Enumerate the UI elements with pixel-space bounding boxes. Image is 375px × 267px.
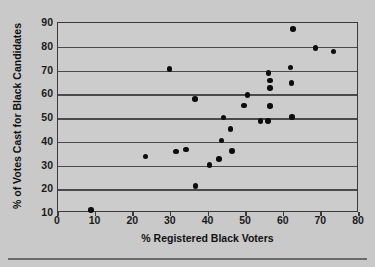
x-tick-label-30: 30 — [155, 215, 185, 226]
data-point — [216, 156, 222, 162]
y-axis-tick-labels: 102030405060708090 — [25, 0, 53, 267]
data-point — [265, 118, 271, 124]
data-point — [207, 162, 213, 168]
data-point — [289, 80, 295, 86]
data-point — [228, 126, 234, 132]
gridline-y-60 — [58, 94, 357, 96]
x-tick-label-70: 70 — [305, 215, 335, 226]
y-tick-label-70: 70 — [29, 65, 53, 76]
scatter-chart-figure: 102030405060708090 % of Votes Cast for B… — [0, 0, 375, 267]
data-point — [143, 154, 149, 160]
y-tick-label-20: 20 — [29, 183, 53, 194]
gridline-y-90 — [58, 23, 357, 25]
x-axis-title: % Registered Black Voters — [57, 232, 358, 244]
data-point — [219, 138, 225, 144]
gridline-y-70 — [58, 71, 357, 73]
y-tick-label-90: 90 — [29, 17, 53, 28]
data-point — [183, 147, 189, 153]
data-point — [241, 103, 247, 109]
data-point — [289, 114, 295, 120]
data-point — [313, 45, 319, 51]
x-tick-label-0: 0 — [42, 215, 72, 226]
x-tick-label-40: 40 — [193, 215, 223, 226]
x-tick-label-20: 20 — [117, 215, 147, 226]
x-tick-label-60: 60 — [268, 215, 298, 226]
data-point — [192, 96, 198, 102]
y-tick-label-60: 60 — [29, 88, 53, 99]
data-point — [245, 92, 251, 98]
data-point — [193, 183, 199, 189]
gridline-y-40 — [58, 142, 357, 144]
data-point — [173, 149, 179, 155]
y-tick-label-40: 40 — [29, 136, 53, 147]
data-point — [267, 85, 273, 91]
plot-area — [57, 22, 358, 212]
data-point — [267, 78, 273, 84]
data-point — [88, 207, 94, 213]
y-tick-label-50: 50 — [29, 112, 53, 123]
data-point — [267, 103, 273, 109]
y-axis-title: % of Votes Cast for Black Candidates — [11, 11, 23, 221]
x-tick-label-80: 80 — [343, 215, 373, 226]
bottom-divider — [8, 258, 367, 260]
gridline-y-20 — [58, 189, 357, 191]
y-tick-label-30: 30 — [29, 160, 53, 171]
x-tick-label-50: 50 — [230, 215, 260, 226]
gridline-y-50 — [58, 118, 357, 120]
data-point — [258, 118, 264, 124]
data-point — [290, 26, 296, 32]
data-point — [167, 66, 173, 72]
y-tick-label-80: 80 — [29, 41, 53, 52]
x-tick-label-10: 10 — [80, 215, 110, 226]
data-point — [331, 49, 337, 55]
data-point — [229, 148, 235, 154]
data-point — [266, 70, 272, 76]
